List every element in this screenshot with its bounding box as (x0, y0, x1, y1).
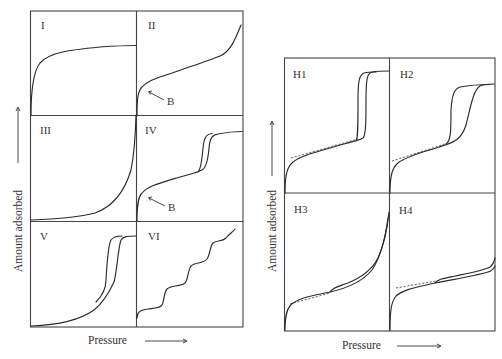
adsorption-branch (390, 84, 494, 193)
extrapolated-line (290, 293, 330, 304)
adsorption-branch (390, 266, 495, 330)
panel-label: IV (145, 124, 157, 136)
adsorption-branch (285, 71, 389, 193)
panel-label: II (148, 19, 156, 31)
desorption-branch (330, 212, 389, 292)
hysteresis-types-grid: H1 H2 H3 H4 (266, 58, 495, 351)
panel-label: I (41, 19, 45, 31)
x-axis-title: Pressure (342, 339, 381, 351)
x-axis-title: Pressure (88, 334, 127, 346)
point-b-label: B (168, 201, 175, 213)
y-axis-label-right: Amount adsorbed (266, 121, 278, 272)
panel-type-VI: VI (137, 229, 235, 318)
y-axis-title: Amount adsorbed (12, 190, 24, 272)
x-axis-label-left: Pressure (88, 334, 187, 346)
panel-type-V: V (31, 230, 136, 326)
panel-label: VI (148, 230, 160, 242)
panel-type-IV: IV B (137, 124, 242, 221)
desorption-branch (446, 85, 490, 145)
isotherm-curve (137, 229, 235, 318)
panel-label: H4 (399, 204, 413, 216)
x-axis-label-right: Pressure (342, 339, 441, 351)
desorption-branch (435, 258, 495, 283)
panel-label: H1 (293, 68, 306, 80)
isotherm-figure: I II B III IV B V (0, 0, 502, 359)
point-b-label: B (167, 95, 174, 107)
adsorption-branch (137, 132, 242, 222)
panel-type-III: III (31, 115, 136, 220)
panel-label: V (40, 230, 48, 242)
isotherm-types-grid: I II B III IV B V (12, 11, 243, 346)
panel-type-II: II B (137, 19, 241, 115)
pointer-arrow (149, 198, 165, 206)
panel-label: H3 (294, 203, 308, 215)
adsorption-branch (31, 236, 136, 326)
isotherm-curve (137, 25, 241, 115)
adsorption-branch (285, 218, 388, 330)
panel-label: III (40, 124, 51, 136)
panel-label: H2 (400, 68, 413, 80)
panel-hysteresis-H4: H4 (390, 204, 495, 330)
panel-hysteresis-H2: H2 (390, 68, 494, 193)
extrapolated-line (392, 144, 445, 161)
panel-hysteresis-H3: H3 (285, 203, 389, 330)
panel-type-I: I (31, 19, 136, 115)
y-axis-title: Amount adsorbed (266, 190, 278, 272)
pointer-arrow (149, 92, 164, 100)
y-axis-label-left: Amount adsorbed (12, 107, 24, 272)
panel-hysteresis-H1: H1 (285, 68, 389, 193)
extrapolated-line (291, 139, 358, 158)
isotherm-curve (31, 46, 136, 116)
